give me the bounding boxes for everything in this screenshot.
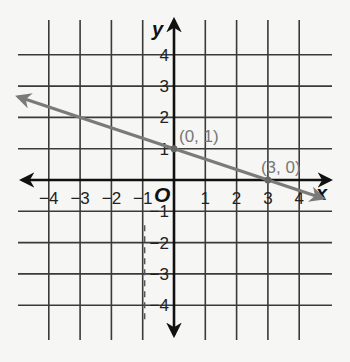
x-tick-label: −2 bbox=[102, 189, 121, 208]
data-line bbox=[18, 97, 323, 198]
point-marker bbox=[264, 177, 271, 184]
x-tick-labels: −4−3−2−11234 bbox=[39, 189, 304, 208]
x-tick-label: 1 bbox=[201, 189, 210, 208]
point-label: (0, 1) bbox=[179, 127, 219, 146]
y-tick-label: 1 bbox=[160, 140, 169, 159]
y-tick-label: −2 bbox=[150, 234, 169, 253]
y-tick-label: −3 bbox=[150, 265, 169, 284]
point-marker bbox=[171, 145, 178, 152]
y-tick-label: 3 bbox=[160, 77, 169, 96]
x-tick-label: 3 bbox=[263, 189, 272, 208]
origin-label: O bbox=[154, 183, 170, 206]
coordinate-plane: −4−3−2−11234 −4−3−2−11234 x y O (0, 1)(3… bbox=[0, 0, 350, 362]
y-axis-label: y bbox=[151, 18, 164, 40]
x-tick-label: −4 bbox=[39, 189, 58, 208]
y-tick-label: −4 bbox=[150, 296, 169, 315]
x-tick-label: −3 bbox=[70, 189, 89, 208]
y-tick-label: 4 bbox=[160, 46, 169, 65]
x-axis-label: x bbox=[315, 182, 328, 204]
y-tick-label: 2 bbox=[160, 108, 169, 127]
x-tick-label: 2 bbox=[232, 189, 241, 208]
point-label: (3, 0) bbox=[261, 158, 301, 177]
